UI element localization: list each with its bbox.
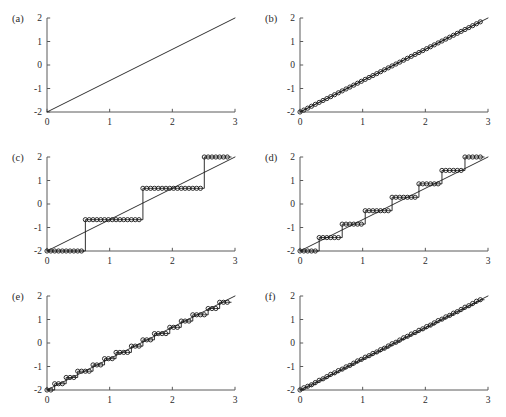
y-tick-label: 2 (37, 152, 42, 162)
x-tick-label: 2 (170, 395, 175, 405)
panel-d-plot: -2-10120123(d) (253, 139, 506, 278)
x-tick-label: 3 (486, 256, 491, 266)
quantization-figure-grid: -2-10120123(a) -2-10120123(b) -2-1012012… (0, 0, 506, 417)
x-tick-label: 1 (360, 395, 365, 405)
x-tick-label: 0 (298, 256, 303, 266)
x-tick-label: 2 (170, 256, 175, 266)
x-tick-label: 1 (107, 117, 112, 127)
y-tick-label: -2 (287, 107, 295, 117)
y-tick-label: 0 (290, 60, 295, 70)
panel-label: (e) (12, 291, 24, 303)
reference-ramp-curve (47, 18, 235, 112)
x-tick-label: 1 (360, 117, 365, 127)
panel-e-plot: -2-10120123(e) (0, 278, 253, 417)
x-tick-label: 2 (423, 117, 428, 127)
panel-a: -2-10120123(a) (0, 0, 253, 139)
panel-a-plot: -2-10120123(a) (0, 0, 253, 139)
y-tick-label: -1 (287, 84, 295, 94)
y-tick-label: 2 (290, 13, 295, 23)
x-tick-label: 0 (45, 117, 50, 127)
y-tick-label: -2 (34, 107, 42, 117)
y-tick-label: 1 (290, 37, 295, 47)
y-tick-label: -1 (34, 223, 42, 233)
y-tick-label: 2 (290, 152, 295, 162)
reference-ramp-curve (300, 157, 488, 251)
y-tick-label: 0 (37, 60, 42, 70)
x-tick-label: 2 (170, 117, 175, 127)
y-tick-label: -1 (287, 223, 295, 233)
x-tick-label: 0 (298, 395, 303, 405)
quantized-signal-curve (47, 302, 231, 390)
x-tick-label: 1 (107, 256, 112, 266)
panel-label: (a) (12, 13, 24, 25)
y-tick-label: -1 (287, 362, 295, 372)
y-tick-label: -1 (34, 84, 42, 94)
x-tick-label: 3 (233, 395, 238, 405)
y-tick-label: -2 (34, 385, 42, 395)
panel-label: (d) (265, 152, 278, 164)
panel-label: (b) (265, 13, 278, 25)
y-tick-label: 0 (37, 338, 42, 348)
y-tick-label: -2 (287, 246, 295, 256)
panel-c: -2-10120123(c) (0, 139, 253, 278)
y-tick-label: 1 (37, 315, 42, 325)
x-tick-label: 2 (423, 256, 428, 266)
x-tick-label: 0 (298, 117, 303, 127)
y-tick-label: 1 (290, 315, 295, 325)
panel-f: -2-10120123(f) (253, 278, 506, 417)
y-tick-label: -2 (34, 246, 42, 256)
y-tick-label: 0 (290, 199, 295, 209)
y-tick-label: 2 (290, 291, 295, 301)
x-tick-label: 2 (423, 395, 428, 405)
x-tick-label: 3 (233, 256, 238, 266)
panel-b: -2-10120123(b) (253, 0, 506, 139)
panel-d: -2-10120123(d) (253, 139, 506, 278)
panel-c-plot: -2-10120123(c) (0, 139, 253, 278)
y-tick-label: 2 (37, 291, 42, 301)
y-tick-label: -2 (287, 385, 295, 395)
y-tick-label: 0 (290, 338, 295, 348)
y-tick-label: 1 (37, 176, 42, 186)
y-tick-label: 1 (37, 37, 42, 47)
x-tick-label: 0 (45, 395, 50, 405)
panel-label: (c) (12, 152, 24, 164)
panel-e: -2-10120123(e) (0, 278, 253, 417)
y-tick-label: 2 (37, 13, 42, 23)
x-tick-label: 1 (107, 395, 112, 405)
x-tick-label: 3 (233, 117, 238, 127)
reference-ramp-curve (47, 157, 235, 251)
x-tick-label: 3 (486, 395, 491, 405)
x-tick-label: 0 (45, 256, 50, 266)
x-tick-label: 3 (486, 117, 491, 127)
x-tick-label: 1 (360, 256, 365, 266)
y-tick-label: -1 (34, 362, 42, 372)
y-tick-label: 0 (37, 199, 42, 209)
panel-f-plot: -2-10120123(f) (253, 278, 506, 417)
panel-b-plot: -2-10120123(b) (253, 0, 506, 139)
y-tick-label: 1 (290, 176, 295, 186)
panel-label: (f) (265, 291, 276, 303)
